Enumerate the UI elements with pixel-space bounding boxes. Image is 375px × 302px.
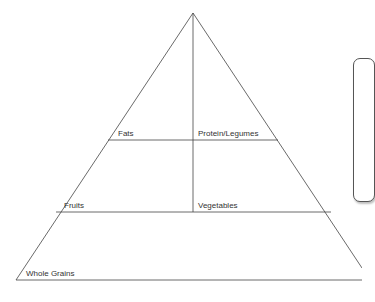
label-protein-legumes: Protein/Legumes [198,130,258,138]
label-fruits: Fruits [64,202,84,210]
side-panel-box [353,58,375,202]
pyramid-right-edge [193,13,362,268]
label-vegetables: Vegetables [198,202,238,210]
label-whole-grains: Whole Grains [26,270,74,278]
label-fats: Fats [118,130,134,138]
pyramid-left-edge [16,13,193,280]
